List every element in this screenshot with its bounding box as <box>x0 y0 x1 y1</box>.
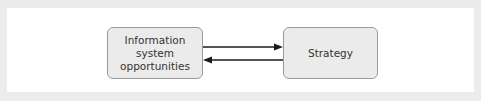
node-label: Strategy <box>308 47 353 60</box>
node-label: Information system opportunities <box>120 34 190 73</box>
node-label-line: system <box>120 47 190 60</box>
node-label-line: Information <box>120 34 190 47</box>
diagram-frame <box>7 8 474 92</box>
node-strategy: Strategy <box>283 27 378 79</box>
node-label-line: opportunities <box>120 60 190 73</box>
node-label-line: Strategy <box>308 47 353 60</box>
node-information-system-opportunities: Information system opportunities <box>107 27 203 79</box>
